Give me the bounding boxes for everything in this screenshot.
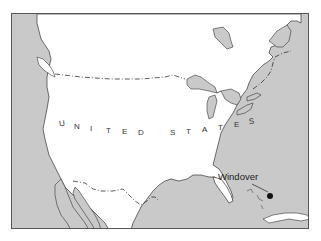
label-letter: S [170,128,175,137]
bahamas [247,189,263,209]
place-label-windover: Windover [218,171,258,182]
label-letter: T [186,127,191,136]
label-letter: N [74,122,80,131]
map-svg [12,14,309,229]
map-frame: U N I T E D S T A T E S Windover [11,13,309,229]
label-letter: E [234,120,239,129]
lake-erie [237,103,253,115]
windover-dot [267,193,273,199]
label-letter: T [106,126,111,135]
lake-ontario [247,93,261,101]
label-letter: T [218,123,223,132]
label-letter: I [90,124,92,133]
label-letter: E [122,127,127,136]
windover-leader [252,184,268,192]
label-letter: U [58,119,65,129]
cuba [263,213,309,223]
label-letter: D [138,128,144,137]
label-letter: S [248,117,255,127]
label-letter: A [202,125,207,134]
